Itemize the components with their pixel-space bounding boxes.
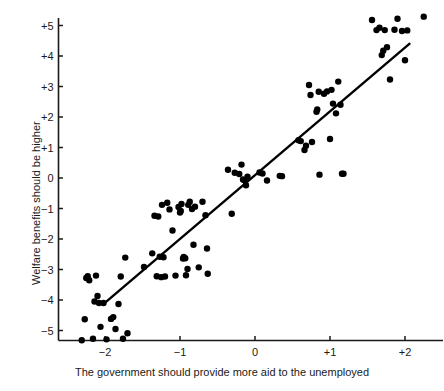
data-point <box>335 78 341 84</box>
plot-canvas <box>0 0 444 391</box>
data-point <box>103 336 109 342</box>
data-point <box>387 76 393 82</box>
data-point <box>118 273 124 279</box>
y-axis-title: Welfare benefits should be higher <box>30 121 42 285</box>
data-point <box>369 17 375 23</box>
data-point <box>183 272 189 278</box>
data-point <box>225 167 231 173</box>
x-tick-label: −1 <box>174 346 187 358</box>
data-point <box>86 277 92 283</box>
tick-marks <box>59 26 406 341</box>
data-point <box>204 245 210 251</box>
data-point <box>384 44 390 50</box>
data-point <box>309 139 315 145</box>
regression-line <box>103 43 411 304</box>
data-point <box>178 201 184 207</box>
data-point <box>238 161 244 167</box>
y-tick-label: −4 <box>33 294 54 306</box>
data-point <box>421 13 427 19</box>
data-point <box>82 316 88 322</box>
data-point <box>166 206 172 212</box>
data-point <box>184 266 190 272</box>
x-tick-label: 0 <box>252 346 258 358</box>
data-point <box>79 337 85 343</box>
data-point <box>314 106 320 112</box>
data-point <box>229 210 235 216</box>
data-point <box>303 142 309 148</box>
data-point <box>94 293 100 299</box>
data-point <box>264 177 270 183</box>
data-point <box>333 110 339 116</box>
data-point <box>196 264 202 270</box>
data-point <box>149 250 155 256</box>
data-point <box>199 199 205 205</box>
data-point <box>124 330 130 336</box>
data-point <box>394 16 400 22</box>
y-tick-label: +5 <box>33 20 54 32</box>
data-point <box>162 273 168 279</box>
data-point <box>307 92 313 98</box>
data-point <box>164 200 170 206</box>
data-point <box>340 171 346 177</box>
y-tick-label: +4 <box>33 50 54 62</box>
data-point <box>205 271 211 277</box>
x-tick-label: −2 <box>99 346 112 358</box>
data-point <box>391 27 397 33</box>
data-point <box>328 87 334 93</box>
data-point <box>192 203 198 209</box>
data-point <box>306 82 312 88</box>
data-point <box>172 272 178 278</box>
data-point <box>236 171 242 177</box>
y-tick-label: −5 <box>33 325 54 337</box>
data-point <box>90 336 96 342</box>
x-tick-label: +1 <box>324 346 337 358</box>
data-point <box>97 324 103 330</box>
data-point <box>115 301 121 307</box>
y-tick-label: +3 <box>33 81 54 93</box>
scatter-plot-figure: −2−10+1+2−5−4−3−2−10+1+2+3+4+5 The gover… <box>0 0 444 391</box>
data-point <box>279 173 285 179</box>
data-point <box>190 242 196 248</box>
data-point <box>402 57 408 63</box>
data-point <box>122 254 128 260</box>
data-point <box>93 272 99 278</box>
data-point <box>382 27 388 33</box>
data-point <box>155 213 161 219</box>
data-point <box>316 171 322 177</box>
data-point <box>182 255 188 261</box>
data-point <box>178 208 184 214</box>
data-point <box>327 136 333 142</box>
fit-line <box>103 43 411 304</box>
data-point <box>112 326 118 332</box>
data-point <box>120 336 126 342</box>
x-tick-label: +2 <box>399 346 412 358</box>
data-point <box>110 314 116 320</box>
data-point <box>404 27 410 33</box>
data-point <box>169 227 175 233</box>
x-axis-title: The government should provide more aid t… <box>0 366 444 378</box>
data-point <box>187 199 193 205</box>
